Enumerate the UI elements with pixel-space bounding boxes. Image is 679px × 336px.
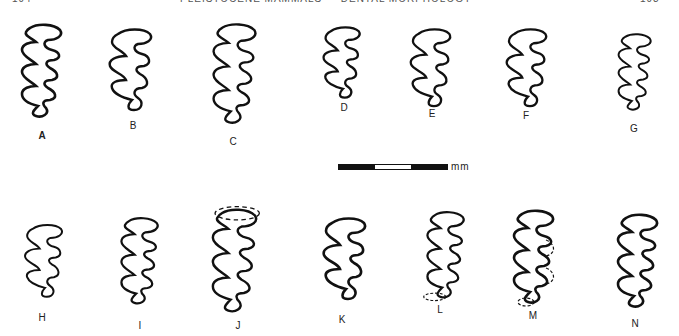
tooth-figure-b: [104, 28, 160, 114]
figure-label-k: K: [332, 314, 352, 325]
scale-bar: [338, 164, 448, 170]
figure-label-n: N: [625, 318, 645, 329]
tooth-figure-f: [500, 28, 556, 110]
tooth-figure-m: [506, 208, 562, 308]
tooth-figure-e: [405, 28, 459, 110]
tooth-figure-n: [610, 212, 666, 312]
scale-segment: [338, 164, 375, 170]
figure-label-m: M: [523, 310, 543, 321]
figure-label-a: A: [32, 130, 52, 141]
figure-label-d: D: [334, 102, 354, 113]
tooth-figure-d: [318, 26, 368, 101]
figure-label-c: C: [223, 136, 243, 147]
tooth-figure-a: [14, 24, 70, 120]
tooth-figure-g: [612, 30, 658, 116]
figure-label-j: J: [228, 320, 248, 331]
scale-segment: [375, 164, 412, 170]
figure-label-l: L: [430, 304, 450, 315]
tooth-figure-h: [20, 218, 70, 306]
scale-segment: [411, 164, 448, 170]
tooth-figure-c: [205, 20, 265, 130]
figure-label-e: E: [422, 108, 442, 119]
figure-label-h: H: [32, 312, 52, 323]
figure-label-f: F: [516, 110, 536, 121]
tooth-figure-j: [204, 206, 266, 318]
page-number-right: 193: [640, 0, 660, 4]
tooth-figure-l: [420, 208, 472, 304]
page-number-left: 194: [12, 0, 32, 4]
figure-label-g: G: [624, 123, 644, 134]
tooth-figure-k: [318, 212, 374, 308]
tooth-figure-i: [114, 210, 166, 314]
figure-label-b: B: [123, 120, 143, 131]
scale-unit-label: mm: [451, 161, 470, 172]
figure-label-i: I: [130, 320, 150, 331]
running-header: PLEISTOCENE MAMMALS — DENTAL MORPHOLOGY: [180, 0, 472, 4]
